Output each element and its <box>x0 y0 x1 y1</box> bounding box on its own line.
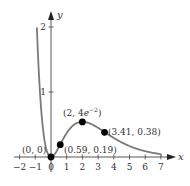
p2-main: (2, 4 <box>63 108 84 118</box>
x-tick-label: 5 <box>127 162 133 172</box>
data-point <box>48 154 55 161</box>
data-point <box>79 119 86 126</box>
x-tick-label: 0 <box>48 162 54 172</box>
x-tick-label: 3 <box>95 162 101 172</box>
function-curve <box>37 28 161 157</box>
x-axis-arrow-icon <box>167 154 176 160</box>
data-point <box>101 129 108 136</box>
point-label-max: (2, 4e−2) <box>63 106 101 118</box>
x-axis-label: x <box>178 151 184 162</box>
x-tick-label: 6 <box>142 162 148 172</box>
point-label-inflection-1: (0.59, 0.19) <box>64 145 117 155</box>
y-tick-label: 1 <box>40 87 46 97</box>
data-point <box>57 141 64 148</box>
x-tick-label: 4 <box>111 162 117 172</box>
x-tick-label: 1 <box>64 162 70 172</box>
y-ticks: 12 <box>40 22 53 97</box>
y-tick-label: 2 <box>40 22 46 32</box>
point-label-origin: (0, 0) <box>22 145 46 155</box>
point-label-inflection-2: (3.41, 0.38) <box>108 127 161 137</box>
p2-close: ) <box>98 108 102 118</box>
x-tick-label: 7 <box>158 162 164 172</box>
y-axis-label: y <box>56 9 63 20</box>
x-tick-label: −2 <box>13 162 26 172</box>
x-tick-label: −1 <box>29 162 42 172</box>
y-axis-arrow-icon <box>48 11 54 20</box>
chart: −2−101234567 12 x y (0, 0) (0.59, 0.19) … <box>0 0 190 186</box>
plot-area: −2−101234567 12 x y (0, 0) (0.59, 0.19) … <box>0 0 190 186</box>
x-tick-label: 2 <box>80 162 86 172</box>
p2-exp: −2 <box>89 106 98 113</box>
